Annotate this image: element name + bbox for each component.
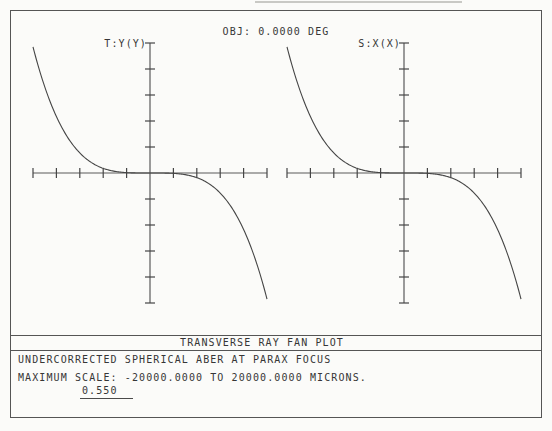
sagittal-axis-label: S:X(X) — [358, 38, 401, 49]
tangential-axis-label: T:Y(Y) — [104, 38, 147, 49]
plot-title: TRANSVERSE RAY FAN PLOT — [180, 337, 344, 348]
lens-description-label: UNDERCORRECTED SPHERICAL ABER AT PARAX F… — [18, 354, 331, 365]
transverse-ray-fan-plot-page: OBJ: 0.0000 DEG T:Y(Y) S:X(X) TRANSVERSE… — [0, 0, 552, 431]
wavelength-value: 0.550 — [82, 385, 118, 396]
wavelength-line-style-sample — [80, 398, 133, 399]
maximum-scale-label: MAXIMUM SCALE: -20000.0000 TO 20000.0000… — [18, 372, 367, 383]
title-band: TRANSVERSE RAY FAN PLOT — [10, 335, 542, 351]
object-angle-label: OBJ: 0.0000 DEG — [0, 26, 552, 37]
